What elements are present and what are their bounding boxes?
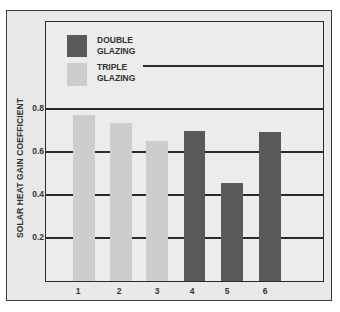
bar-5-double-glazing — [221, 183, 243, 281]
bar-4-double-glazing — [184, 131, 205, 281]
legend-label-triple-line1: TRIPLE — [97, 62, 157, 73]
bar-2-triple-glazing — [110, 123, 132, 281]
ytick-label-0.4: 0.4 — [28, 189, 44, 199]
legend-label-double-glazing: DOUBLE GLAZING — [97, 35, 157, 57]
legend-swatch-triple-glazing — [67, 63, 87, 86]
legend-swatch-double-glazing — [67, 35, 87, 57]
xtick-label-2: 2 — [108, 286, 130, 296]
xtick-label-1: 1 — [67, 286, 89, 296]
legend-label-double-line2: GLAZING — [97, 46, 157, 57]
ytick-label-0.8: 0.8 — [28, 103, 44, 113]
bar-3-triple-glazing — [146, 141, 168, 281]
y-axis-label: SOLAR HEAT GAIN COEFFICIENT — [15, 98, 25, 238]
xtick-label-4: 4 — [181, 286, 203, 296]
ytick-label-0.2: 0.2 — [28, 232, 44, 242]
gridline-0.8 — [46, 108, 324, 110]
legend-label-double-line1: DOUBLE — [97, 35, 157, 46]
legend-label-triple-glazing: TRIPLE GLAZING — [97, 62, 157, 84]
gridline-1.0 — [143, 65, 324, 67]
xtick-label-5: 5 — [216, 286, 238, 296]
bar-6-double-glazing — [259, 132, 281, 281]
ytick-label-0.6: 0.6 — [28, 146, 44, 156]
legend-label-triple-line2: GLAZING — [97, 73, 157, 84]
bar-1-triple-glazing — [73, 115, 95, 281]
xtick-label-3: 3 — [146, 286, 168, 296]
xtick-label-6: 6 — [254, 286, 276, 296]
